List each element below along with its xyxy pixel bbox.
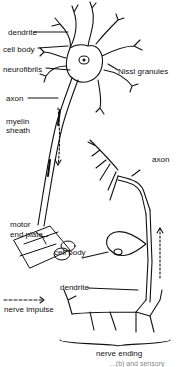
label-axon-right: axon [152,155,169,164]
label-nerve-impulse: nerve impulse [4,305,54,314]
label-end-plate: end plate [10,230,43,239]
label-cell-body-top: cell body [3,45,35,54]
caption-fragment: ...(b) and sensory [110,360,164,367]
label-nissl-granules: Nissl granules [118,67,168,76]
label-cell-body-bottom: cell body [54,248,86,257]
label-myelin: myelin [6,117,29,126]
label-sheath: sheath [6,126,30,135]
label-dendrite-bottom: dendrite [60,283,89,292]
label-motor: motor [10,220,30,229]
label-axon-left: axon [6,94,23,103]
label-nerve-ending: nerve ending [96,349,142,358]
label-dendrite-top: dendrite [8,28,37,37]
label-neurofibrils: neurofibrils [3,65,42,74]
